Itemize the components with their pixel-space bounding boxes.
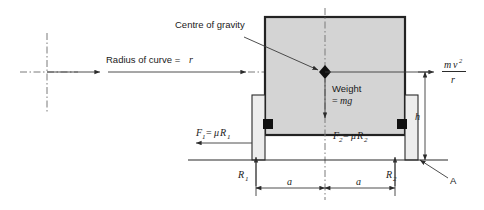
reaction-left-r: R — [237, 169, 244, 180]
dimension-left-label: a — [287, 176, 292, 187]
weight-text-line1: Weight — [332, 83, 362, 94]
centrifugal-denominator: r — [451, 74, 455, 85]
centrifugal-numerator-m: m — [444, 59, 451, 70]
friction-left-f-sub: 1 — [202, 133, 206, 141]
reaction-left-sub: 1 — [245, 175, 249, 183]
friction-right-r: R — [356, 130, 363, 141]
point-a-leader: A — [420, 160, 457, 186]
friction-left-mu: μ — [213, 127, 219, 138]
centre-of-gravity-label: Centre of gravity — [175, 19, 245, 30]
reaction-left-label: R 1 — [237, 169, 249, 183]
weight-equals: = — [332, 95, 338, 106]
vehicle-cornering-diagram: Radius of curve = r Centre of gravity — [0, 0, 484, 210]
curve-centre-marker — [20, 33, 78, 112]
centrifugal-force-label: m v 2 r — [442, 57, 466, 85]
height-symbol: h — [415, 111, 420, 122]
weight-symbol: mg — [340, 95, 352, 106]
friction-left-r-sub: 1 — [227, 133, 231, 141]
reaction-right-r: R — [385, 169, 392, 180]
friction-force-left-label: F 1 = μ R 1 — [195, 127, 231, 141]
friction-right-mu: μ — [350, 130, 356, 141]
radius-symbol-text: r — [189, 54, 193, 65]
centrifugal-exponent: 2 — [459, 57, 463, 64]
friction-left-r: R — [219, 127, 226, 138]
dimension-right-label: a — [356, 176, 361, 187]
dimension-left-a: a — [256, 160, 325, 196]
vehicle-body — [265, 17, 405, 135]
axle-block-left — [263, 119, 273, 129]
dimension-right-a: a — [325, 160, 395, 196]
axle-block-right — [397, 119, 407, 129]
diagram-canvas: Radius of curve = r Centre of gravity — [0, 0, 484, 210]
point-a-label: A — [450, 175, 457, 186]
centrifugal-numerator-v: v — [453, 59, 458, 70]
friction-left-equals: = — [206, 127, 212, 138]
friction-right-r-sub: 2 — [364, 136, 368, 144]
radius-of-curve-label: Radius of curve = r — [106, 54, 193, 65]
radius-of-curve-text: Radius of curve = — [106, 54, 181, 65]
friction-right-equals: = — [343, 130, 349, 141]
